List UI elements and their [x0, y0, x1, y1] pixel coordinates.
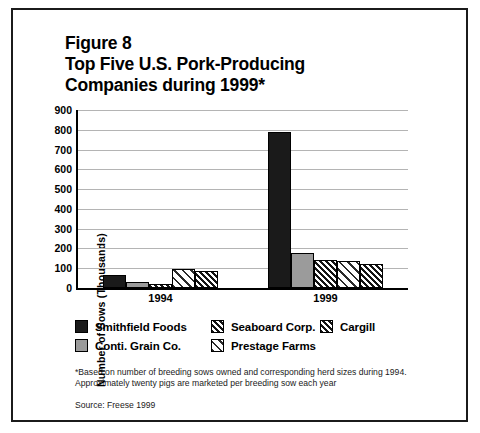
gridline	[78, 248, 408, 249]
gridline	[78, 209, 408, 210]
x-axis-tick-label: 1994	[148, 292, 172, 304]
x-axis-tick-label: 1999	[313, 292, 337, 304]
bar-conti-grain-co-1994	[126, 282, 149, 288]
y-axis-tick-label: 0	[66, 282, 72, 294]
gridline	[78, 150, 408, 151]
y-axis-tick-label: 700	[54, 144, 72, 156]
gridline	[78, 229, 408, 230]
y-axis-title: Number of Sows (Thousands)	[95, 230, 107, 390]
y-axis-tick-label: 200	[54, 242, 72, 254]
y-axis-tick-label: 900	[54, 104, 72, 116]
y-axis-tick-label: 600	[54, 163, 72, 175]
gridline	[78, 110, 408, 111]
chart-plot-wrapper: Number of Sows (Thousands) 0100200300400…	[0, 0, 480, 433]
bar-smithfield-foods-1994	[103, 275, 126, 288]
y-axis-tick-label: 400	[54, 203, 72, 215]
gridline	[78, 189, 408, 190]
bar-conti-grain-co-1999	[291, 253, 314, 288]
y-axis-tick-label: 500	[54, 183, 72, 195]
bar-smithfield-foods-1999	[268, 132, 291, 288]
bar-prestage-farms-1999	[337, 261, 360, 288]
gridline	[78, 169, 408, 170]
y-axis-tick-label: 100	[54, 262, 72, 274]
y-axis-tick-label: 300	[54, 223, 72, 235]
bar-cargill-1994	[195, 271, 218, 288]
bar-seaboard-corp-1999	[314, 260, 337, 288]
y-axis-tick-label: 800	[54, 124, 72, 136]
bar-cargill-1999	[360, 264, 383, 288]
chart-plot-area: Number of Sows (Thousands) 0100200300400…	[76, 110, 408, 290]
bar-seaboard-corp-1994	[149, 284, 172, 288]
gridline	[78, 130, 408, 131]
bar-prestage-farms-1994	[172, 269, 195, 288]
